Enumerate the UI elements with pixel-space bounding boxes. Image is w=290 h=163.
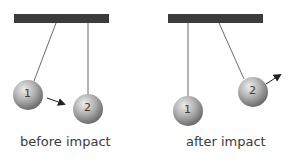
ball-2-number: 2 (84, 101, 91, 114)
before-impact-panel (13, 14, 109, 124)
support-bar (14, 14, 109, 23)
velocity-arrow-icon (266, 75, 280, 84)
string-ball-1 (34, 23, 56, 81)
ball-1-number: 1 (184, 103, 191, 116)
velocity-arrow-icon (47, 98, 64, 104)
after-impact-caption: after impact (186, 134, 266, 149)
ball-1-number: 1 (24, 87, 31, 100)
support-bar (168, 14, 263, 23)
string-ball-2 (219, 23, 244, 79)
before-impact-caption: before impact (20, 134, 111, 149)
ball-2-number: 2 (249, 84, 256, 97)
